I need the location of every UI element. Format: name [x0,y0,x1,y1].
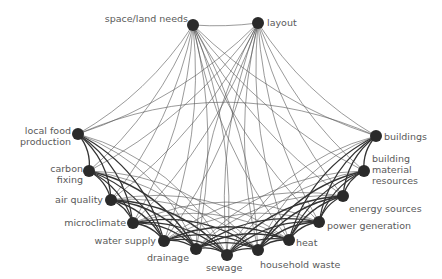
node-label-water: water supply [80,235,156,246]
node-label-air: air quality [40,194,103,205]
node-space-land [187,19,199,31]
node-label-layout: layout [267,17,317,28]
node-label-sewage: sewage [206,262,256,273]
node-drainage [190,243,202,255]
node-label-micro: microclimate [50,217,126,228]
node-label-space-land: space/land needs [70,13,188,24]
edge [258,23,376,136]
node-label-bmr: building material resources [372,153,432,186]
edge [78,25,193,134]
edge [193,25,343,196]
node-layout [252,17,264,29]
node-micro [127,217,139,229]
edge [258,23,319,222]
node-heat [283,234,295,246]
node-label-carbon: carbon fixing [40,163,83,185]
node-air [105,194,117,206]
node-label-household: household waste [260,259,360,270]
node-label-energy: energy sources [349,203,441,214]
edge [164,25,196,241]
node-bmr [358,165,370,177]
node-sewage [221,249,233,261]
node-power [313,216,325,228]
node-label-power: power generation [327,220,427,231]
node-buildings [370,130,382,142]
node-carbon [83,165,95,177]
edge [78,134,196,249]
edge [78,23,258,134]
node-label-drainage: drainage [135,252,189,263]
node-household [252,244,264,256]
edge [258,23,364,171]
node-label-buildings: buildings [384,131,442,142]
node-water [158,235,170,247]
node-local-food [72,128,84,140]
node-label-heat: heat [296,237,326,248]
node-label-local-food: local food production [0,125,71,147]
edge [193,23,258,26]
node-energy [337,190,349,202]
